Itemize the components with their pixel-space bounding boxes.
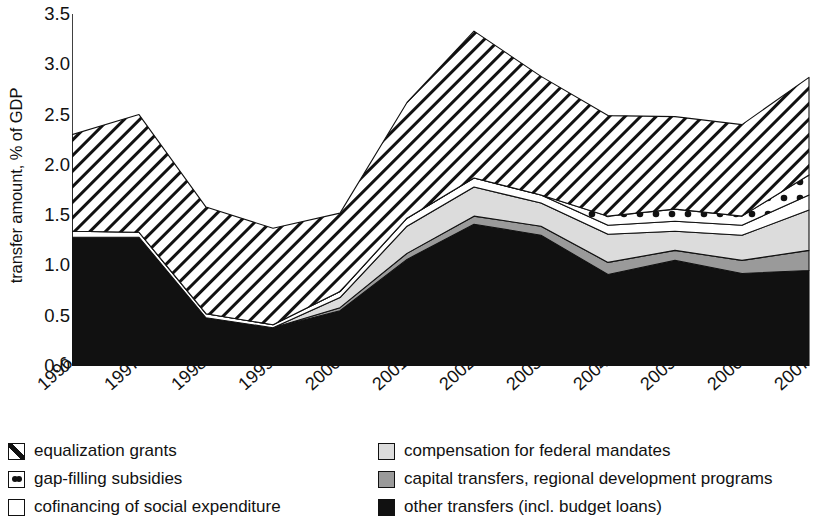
- y-axis-tick-label: 3.5: [44, 5, 70, 24]
- y-axis-tick-labels: 0.00.51.01.52.02.53.03.5: [30, 0, 70, 380]
- legend-left-column: equalization grantsgap-filling subsidies…: [8, 437, 281, 521]
- y-axis-tick-label: 3.0: [44, 55, 70, 74]
- light-gray-swatch-icon: [378, 443, 395, 460]
- black-swatch-icon: [378, 499, 395, 516]
- white-swatch-icon: [8, 499, 25, 516]
- legend-right-column: compensation for federal mandatescapital…: [378, 437, 773, 521]
- legend-item-label: other transfers (incl. budget loans): [404, 498, 662, 517]
- hatch-swatch-icon: [8, 443, 25, 460]
- legend-item[interactable]: cofinancing of social expenditure: [8, 493, 281, 521]
- y-axis-label: transfer amount, % of GDP: [8, 87, 27, 283]
- y-axis-tick-label: 1.0: [44, 256, 70, 275]
- legend-item-label: cofinancing of social expenditure: [34, 498, 281, 517]
- chart-svg: [72, 14, 817, 366]
- plot-area: [72, 14, 817, 366]
- y-axis-tick-label: 1.5: [44, 206, 70, 225]
- legend-item-label: equalization grants: [34, 442, 177, 461]
- legend-item[interactable]: compensation for federal mandates: [378, 437, 773, 465]
- legend-item-label: capital transfers, regional development …: [404, 470, 773, 489]
- chart-layers: [72, 31, 809, 366]
- legend-item-label: compensation for federal mandates: [404, 442, 671, 461]
- legend-item[interactable]: capital transfers, regional development …: [378, 465, 773, 493]
- stacked-area-chart-figure: transfer amount, % of GDP 0.00.51.01.52.…: [0, 0, 817, 522]
- legend-item[interactable]: other transfers (incl. budget loans): [378, 493, 773, 521]
- dotted-swatch-icon: [8, 471, 25, 488]
- legend-item[interactable]: gap-filling subsidies: [8, 465, 281, 493]
- y-axis-tick-label: 2.5: [44, 106, 70, 125]
- y-axis-tick-label: 2.0: [44, 156, 70, 175]
- legend-item-label: gap-filling subsidies: [34, 470, 182, 489]
- x-axis-tick-labels: 1996199719981999200020012002200320042005…: [0, 368, 817, 434]
- y-axis-tick-label: 0.5: [44, 307, 70, 326]
- y-axis-label-container: transfer amount, % of GDP: [0, 0, 34, 370]
- chart-legend: equalization grantsgap-filling subsidies…: [0, 437, 817, 522]
- legend-item[interactable]: equalization grants: [8, 437, 281, 465]
- mid-gray-swatch-icon: [378, 471, 395, 488]
